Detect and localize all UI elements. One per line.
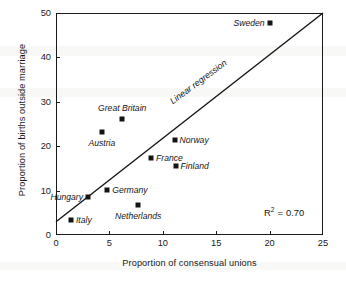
linear-regression-line bbox=[56, 13, 323, 222]
data-point-marker bbox=[172, 137, 177, 142]
data-point-label: Norway bbox=[180, 135, 209, 145]
data-point-label: Italy bbox=[76, 215, 92, 225]
scatter-chart-figure: Proportion of births outside marriage Pr… bbox=[0, 0, 346, 281]
data-point-label: Sweden bbox=[234, 18, 265, 28]
data-point-marker bbox=[149, 155, 154, 160]
data-point-marker bbox=[86, 194, 91, 199]
data-point-marker bbox=[173, 163, 178, 168]
data-point-label: France bbox=[156, 153, 183, 163]
r-squared-equals: = bbox=[277, 207, 282, 218]
data-point-marker bbox=[136, 202, 141, 207]
data-point-label: Germany bbox=[112, 185, 147, 195]
r-squared-annotation: R2=0.70 bbox=[264, 206, 304, 218]
r-squared-exponent: 2 bbox=[271, 206, 275, 213]
data-point-label: Netherlands bbox=[115, 211, 161, 221]
data-point-marker bbox=[99, 129, 104, 134]
data-point-label: Austria bbox=[89, 138, 116, 148]
data-point-label: Hungary bbox=[51, 192, 83, 202]
r-squared-value: 0.70 bbox=[286, 207, 304, 218]
data-point-marker bbox=[68, 217, 73, 222]
data-point-label: Finland bbox=[181, 161, 209, 171]
data-point-marker bbox=[120, 117, 125, 122]
r-squared-symbol: R bbox=[264, 207, 271, 218]
data-point-marker bbox=[105, 188, 110, 193]
data-point-label: Great Britain bbox=[98, 103, 146, 113]
data-point-marker bbox=[267, 21, 272, 26]
